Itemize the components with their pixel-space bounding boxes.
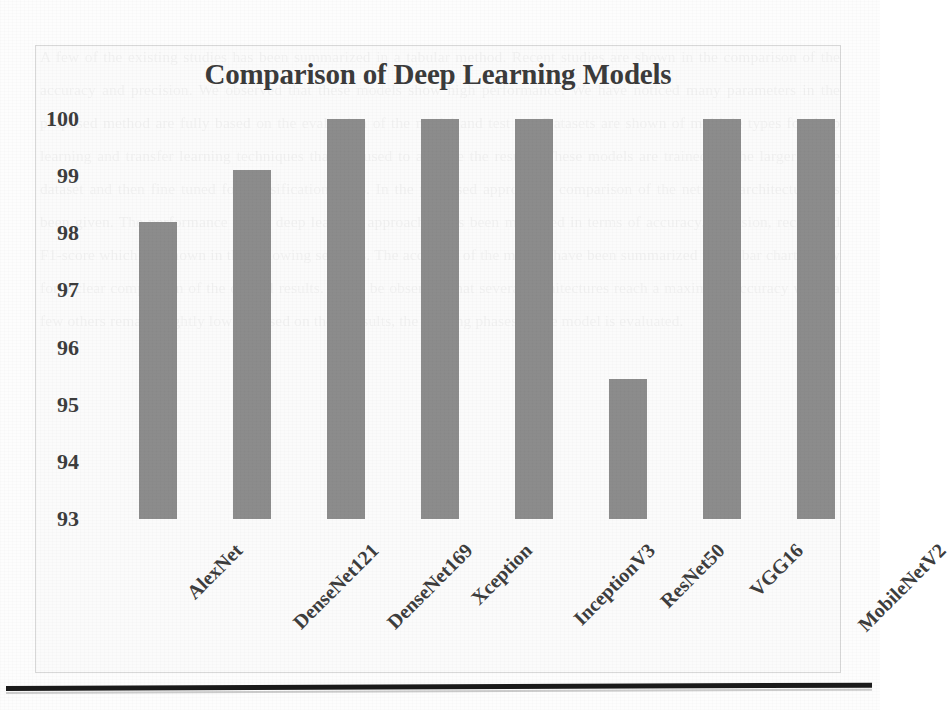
- y-tick-93: 93: [19, 506, 79, 532]
- bar-xception: [421, 119, 459, 519]
- chart-figure: Comparison of Deep Learning Models 10099…: [35, 45, 841, 673]
- x-tick-densenet121: DenseNet121: [289, 539, 384, 634]
- x-tick-alexnet: AlexNet: [182, 539, 247, 604]
- bar-alexnet: [139, 222, 177, 519]
- bar-densenet169: [327, 119, 365, 519]
- y-tick-100: 100: [19, 106, 79, 132]
- bar-densenet121: [233, 170, 271, 519]
- bar-vgg16: [703, 119, 741, 519]
- y-tick-98: 98: [19, 220, 79, 246]
- y-tick-96: 96: [19, 335, 79, 361]
- chart-title: Comparison of Deep Learning Models: [36, 58, 840, 91]
- y-tick-94: 94: [19, 449, 79, 475]
- plot-area: 10099989796959493 AlexNetDenseNet121Dens…: [36, 119, 842, 519]
- bar-resnet50: [609, 379, 647, 519]
- y-tick-95: 95: [19, 392, 79, 418]
- x-tick-resnet50: ResNet50: [656, 539, 730, 613]
- bar-mobilenetv2: [797, 119, 835, 519]
- x-tick-vgg16: VGG16: [745, 539, 808, 602]
- y-tick-99: 99: [19, 163, 79, 189]
- x-tick-mobilenetv2: MobileNetV2: [854, 539, 951, 636]
- x-tick-inceptionv3: InceptionV3: [569, 539, 660, 630]
- x-tick-xception: Xception: [466, 539, 536, 609]
- y-tick-97: 97: [19, 277, 79, 303]
- bar-inceptionv3: [515, 119, 553, 519]
- x-tick-densenet169: DenseNet169: [383, 539, 478, 634]
